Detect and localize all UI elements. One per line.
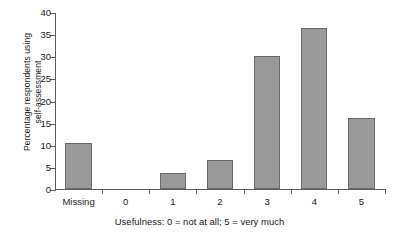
x-axis-category-label: 0 — [123, 196, 128, 207]
bar — [65, 143, 91, 189]
y-axis-tick-label: 10 — [40, 140, 51, 151]
x-axis-category-label: 5 — [359, 196, 364, 207]
x-axis-category-label: 1 — [170, 196, 175, 207]
x-axis-category-label: 3 — [264, 196, 269, 207]
bar — [348, 118, 374, 189]
x-axis-tick — [244, 189, 245, 194]
bar — [160, 173, 186, 189]
bar — [301, 28, 327, 189]
x-axis-category-label: 2 — [217, 196, 222, 207]
x-axis-category-label: Missing — [62, 196, 94, 207]
bar-chart-figure: Percentage respondents using self-assess… — [0, 0, 399, 239]
y-axis-tick-label: 30 — [40, 51, 51, 62]
x-axis-category-label: 4 — [312, 196, 317, 207]
y-axis-tick-label: 15 — [40, 118, 51, 129]
x-axis-tick — [102, 189, 103, 194]
y-axis-tick-label: 40 — [40, 7, 51, 18]
y-axis-tick-label: 0 — [46, 184, 51, 195]
x-axis-tick — [196, 189, 197, 194]
y-axis-tick-label: 5 — [46, 162, 51, 173]
y-axis-label-line-2: self-assessment — [33, 61, 44, 124]
x-axis-line — [55, 189, 385, 190]
x-axis-tick — [149, 189, 150, 194]
x-axis-tick — [338, 189, 339, 194]
x-axis-tick — [385, 189, 386, 194]
x-axis-label: Usefulness: 0 = not at all; 5 = very muc… — [0, 216, 399, 228]
bar — [207, 160, 233, 189]
y-axis-label: Percentage respondents using self-assess… — [18, 0, 48, 187]
x-axis-tick — [291, 189, 292, 194]
y-axis-tick-label: 20 — [40, 96, 51, 107]
y-axis-label-line-1: Percentage respondents using — [22, 33, 33, 151]
bar — [254, 56, 280, 189]
y-axis-tick-label: 25 — [40, 73, 51, 84]
y-axis-tick-label: 35 — [40, 29, 51, 40]
plot-area: 0510152025303540 — [55, 13, 385, 190]
